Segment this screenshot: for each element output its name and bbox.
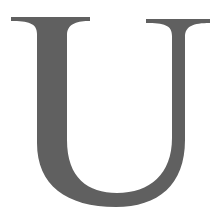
letter-u-shape	[0, 0, 215, 223]
letter-u-glyph: U	[0, 0, 215, 223]
